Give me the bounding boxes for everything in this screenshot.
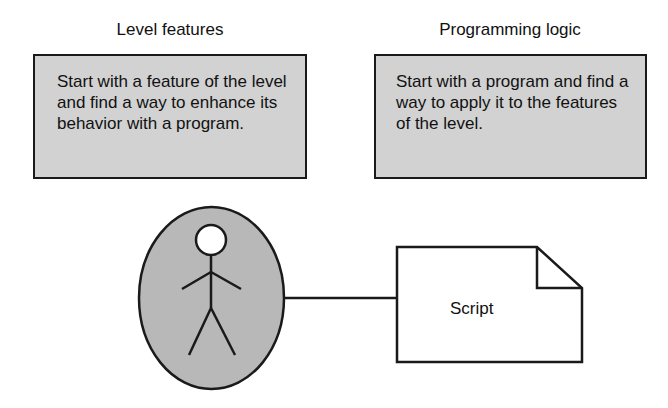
script-label: Script: [450, 299, 493, 319]
diagram-graphics: [0, 0, 668, 408]
stick-figure-actor-icon: [139, 207, 284, 389]
